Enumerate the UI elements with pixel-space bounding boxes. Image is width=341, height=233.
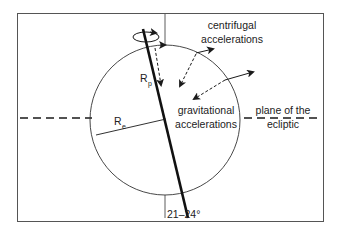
centrifugal-arrow-upper xyxy=(196,49,213,53)
label-centrifugal-2: accelerations xyxy=(201,33,263,45)
earth-axial-tilt-diagram: centrifugal accelerations gravitational … xyxy=(0,0,341,233)
centrifugal-arrow-lower xyxy=(225,72,253,80)
gravitational-arrow-upper xyxy=(180,54,196,86)
label-tilt-angle: 21–24° xyxy=(167,208,200,220)
label-polar-radius-sub: p xyxy=(148,80,152,88)
label-equatorial-radius: R xyxy=(114,115,122,127)
label-plane-2: ecliptic xyxy=(267,118,299,130)
label-gravitational-1: gravitational xyxy=(178,104,235,116)
equatorial-radius-line xyxy=(96,119,166,135)
label-gravitational-2: accelerations xyxy=(175,118,237,130)
label-plane-1: plane of the xyxy=(256,104,311,116)
label-polar-radius: R xyxy=(140,72,148,84)
label-centrifugal-1: centrifugal xyxy=(208,19,256,31)
gravitational-arrow-lower xyxy=(194,80,225,99)
label-equatorial-radius-sub: e xyxy=(122,123,126,130)
